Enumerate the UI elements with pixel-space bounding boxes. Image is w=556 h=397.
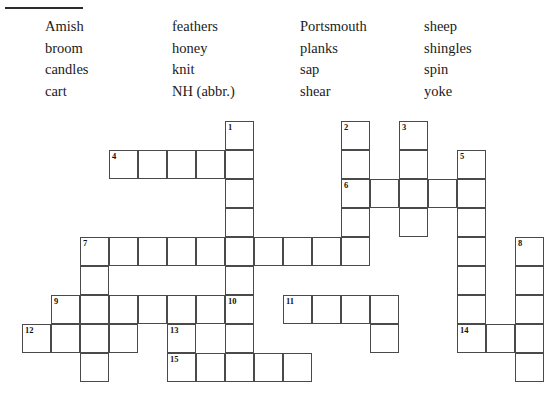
crossword-cell-7[interactable]: 7 (80, 237, 109, 266)
crossword-cell[interactable] (457, 295, 486, 324)
crossword-cell[interactable] (80, 353, 109, 382)
crossword-cell-14[interactable]: 14 (457, 324, 486, 353)
clue-number: 14 (460, 325, 469, 335)
crossword-cell-6[interactable]: 6 (341, 179, 370, 208)
crossword-cell[interactable] (341, 208, 370, 237)
clue-number: 6 (344, 180, 348, 190)
crossword-cell[interactable] (80, 295, 109, 324)
crossword-cell[interactable] (254, 353, 283, 382)
crossword-cell[interactable] (341, 150, 370, 179)
clue-number: 10 (228, 296, 237, 306)
crossword-cell-15[interactable]: 15 (167, 353, 196, 382)
clue-number: 12 (25, 325, 34, 335)
clue-number: 3 (402, 122, 406, 132)
crossword-cell[interactable] (225, 266, 254, 295)
crossword-cell[interactable] (109, 295, 138, 324)
crossword-cell[interactable] (167, 150, 196, 179)
clue-number: 7 (83, 238, 87, 248)
crossword-cell[interactable] (457, 237, 486, 266)
crossword-cell[interactable] (515, 324, 544, 353)
crossword-cell[interactable] (109, 324, 138, 353)
crossword-cell[interactable] (370, 295, 399, 324)
crossword-cell[interactable] (138, 295, 167, 324)
crossword-cell[interactable] (515, 266, 544, 295)
crossword-cell[interactable] (196, 353, 225, 382)
crossword-cell[interactable] (254, 237, 283, 266)
clue-number: 2 (344, 122, 348, 132)
crossword-cell[interactable] (80, 324, 109, 353)
clue-number: 13 (170, 325, 179, 335)
crossword-cell[interactable] (370, 179, 399, 208)
clue-number: 11 (286, 296, 294, 306)
crossword-cell[interactable] (225, 150, 254, 179)
crossword-cell-12[interactable]: 12 (22, 324, 51, 353)
clue-number: 9 (54, 296, 58, 306)
crossword-cell-8[interactable]: 8 (515, 237, 544, 266)
crossword-cell[interactable] (341, 295, 370, 324)
crossword-cell[interactable] (225, 353, 254, 382)
crossword-cell[interactable] (370, 324, 399, 353)
crossword-cell[interactable] (51, 324, 80, 353)
crossword-cell[interactable] (312, 237, 341, 266)
crossword-cell-13[interactable]: 13 (167, 324, 196, 353)
crossword-cell-1[interactable]: 1 (225, 121, 254, 150)
crossword-cell[interactable] (515, 353, 544, 382)
crossword-cell[interactable] (109, 237, 138, 266)
crossword-cell[interactable] (167, 295, 196, 324)
crossword-cell[interactable] (283, 353, 312, 382)
crossword-cell[interactable] (428, 179, 457, 208)
clue-number: 1 (228, 122, 232, 132)
crossword-cell[interactable] (457, 179, 486, 208)
crossword-cell[interactable] (138, 150, 167, 179)
crossword-cell[interactable] (341, 237, 370, 266)
crossword-cell-2[interactable]: 2 (341, 121, 370, 150)
crossword-cell[interactable] (283, 237, 312, 266)
crossword-cell[interactable] (457, 208, 486, 237)
crossword-cell[interactable] (399, 150, 428, 179)
crossword-cell-5[interactable]: 5 (457, 150, 486, 179)
crossword-cell[interactable] (167, 237, 196, 266)
clue-number: 4 (112, 151, 116, 161)
crossword-cell[interactable] (457, 266, 486, 295)
crossword-cell-9[interactable]: 9 (51, 295, 80, 324)
crossword-cell-10[interactable]: 10 (225, 295, 254, 324)
crossword-cell-3[interactable]: 3 (399, 121, 428, 150)
crossword-cell-11[interactable]: 11 (283, 295, 312, 324)
clue-number: 8 (518, 238, 522, 248)
crossword-cell[interactable] (225, 237, 254, 266)
crossword-grid[interactable]: 142635789101112131415 (0, 0, 556, 397)
crossword-cell[interactable] (196, 237, 225, 266)
crossword-cell[interactable] (399, 208, 428, 237)
crossword-cell[interactable] (399, 179, 428, 208)
crossword-cell[interactable] (312, 295, 341, 324)
crossword-cell[interactable] (225, 208, 254, 237)
crossword-cell[interactable] (486, 324, 515, 353)
crossword-cell[interactable] (225, 324, 254, 353)
crossword-cell[interactable] (138, 237, 167, 266)
crossword-cell-4[interactable]: 4 (109, 150, 138, 179)
crossword-cell[interactable] (225, 179, 254, 208)
clue-number: 15 (170, 354, 179, 364)
crossword-cell[interactable] (196, 295, 225, 324)
crossword-cell[interactable] (80, 266, 109, 295)
crossword-cell[interactable] (515, 295, 544, 324)
crossword-cell[interactable] (196, 150, 225, 179)
clue-number: 5 (460, 151, 464, 161)
